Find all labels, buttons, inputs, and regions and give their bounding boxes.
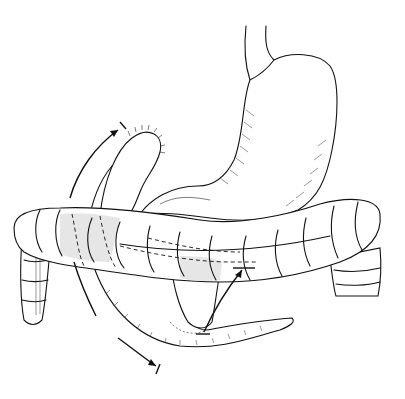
medical-illustration (0, 0, 405, 399)
stomach (140, 55, 337, 221)
